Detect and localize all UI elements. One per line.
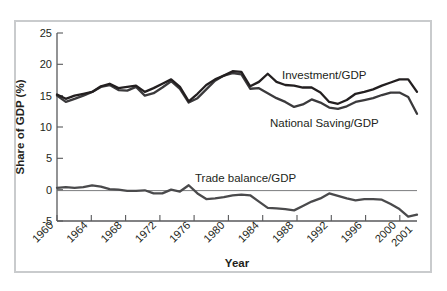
- series-line-trade-balance: [57, 185, 417, 216]
- y-tick-label-20: 20: [40, 58, 52, 70]
- y-tick-label-0: 0: [46, 184, 52, 196]
- annotation-national-saving: National Saving/GDP: [270, 117, 379, 129]
- y-tick-label-10: 10: [40, 121, 52, 133]
- annotation-trade-balance: Trade balance/GDP: [195, 172, 297, 184]
- x-tick-labels: 1960 1964 1968 1972 1976 1980 1984 1988 …: [30, 219, 415, 249]
- y-axis-title: Share of GDP (%): [14, 79, 26, 174]
- y-tick-marks: [57, 33, 63, 221]
- x-tick-label-1972: 1972: [133, 219, 159, 245]
- x-tick-label-1992: 1992: [304, 219, 330, 245]
- x-tick-label-1996: 1996: [338, 219, 364, 245]
- x-tick-marks: [57, 215, 400, 221]
- x-tick-label-1984: 1984: [235, 219, 261, 245]
- y-tick-label-5: 5: [46, 152, 52, 164]
- x-tick-label-1964: 1964: [64, 219, 90, 245]
- y-tick-label-25: 25: [40, 27, 52, 39]
- x-tick-label-1968: 1968: [98, 219, 124, 245]
- line-chart: 25 20 15 10 5 0 -5 1960 1964 1968 1972 1…: [0, 0, 447, 291]
- x-axis-title: Year: [225, 257, 250, 269]
- y-tick-label-15: 15: [40, 90, 52, 102]
- x-tick-label-1980: 1980: [201, 219, 227, 245]
- annotation-investment: Investment/GDP: [282, 69, 367, 81]
- x-tick-label-1976: 1976: [167, 219, 193, 245]
- x-tick-label-1988: 1988: [270, 219, 296, 245]
- figure-container: 25 20 15 10 5 0 -5 1960 1964 1968 1972 1…: [0, 0, 447, 291]
